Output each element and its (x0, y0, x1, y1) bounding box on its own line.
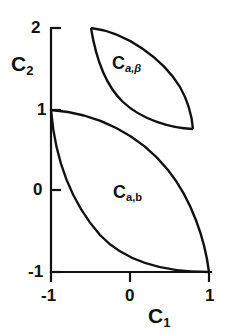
y-axis-title-sub: 2 (26, 63, 33, 78)
x-axis-title-main: C (148, 304, 163, 327)
region-label-lower-main: C (113, 182, 126, 202)
region-label-upper-sub: a,β (125, 62, 141, 74)
y-tick-label-0: 0 (33, 181, 42, 198)
upper-lens-bottom-boundary-curve (91, 28, 193, 129)
x-axis-title-sub: 1 (163, 315, 170, 330)
y-axis-title-main: C (11, 52, 26, 75)
figure-canvas: 2 1 0 -1 -1 0 1 C2 C1 Ca,β Ca,b (0, 0, 233, 334)
y-tick-label-neg1: -1 (28, 263, 43, 280)
region-label-upper-lens: Ca,β (112, 54, 141, 74)
y-axis-title: C2 (11, 53, 33, 77)
region-label-lower-lens: Ca,b (113, 183, 142, 203)
plot-svg (0, 0, 233, 334)
x-tick-label-neg1: -1 (41, 287, 56, 304)
region-label-lower-sub: a,b (126, 191, 142, 203)
y-tick-label-1: 1 (37, 101, 46, 118)
region-label-upper-main: C (112, 53, 125, 73)
x-tick-label-1: 1 (205, 287, 214, 304)
y-tick-label-2: 2 (31, 19, 40, 36)
x-tick-label-0: 0 (125, 287, 134, 304)
x-axis-title: C1 (148, 305, 170, 329)
